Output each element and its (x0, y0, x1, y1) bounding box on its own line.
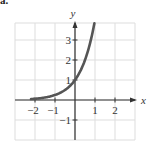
axis-labels: −2−112321−1xy (27, 7, 146, 126)
y-tick-label: 1 (66, 74, 72, 86)
x-axis-arrow-icon (130, 98, 137, 103)
y-axis-arrow-icon (73, 21, 78, 28)
x-axis-label: x (140, 94, 146, 106)
y-tick-label: 2 (66, 54, 72, 66)
x-tick-label: −1 (47, 104, 59, 116)
y-axis-label: y (70, 7, 76, 19)
x-tick-label: 1 (92, 104, 98, 116)
y-tick-label: 3 (66, 34, 72, 46)
exponential-curve (31, 23, 94, 99)
y-tick-label: −1 (59, 114, 71, 126)
x-tick-label: 2 (112, 104, 118, 116)
graph: −2−112321−1xy (0, 0, 149, 151)
x-tick-label: −2 (27, 104, 39, 116)
